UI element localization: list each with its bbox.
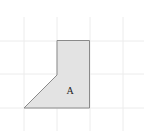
shape-label: A bbox=[66, 85, 74, 96]
grid-diagram: A bbox=[0, 0, 152, 131]
